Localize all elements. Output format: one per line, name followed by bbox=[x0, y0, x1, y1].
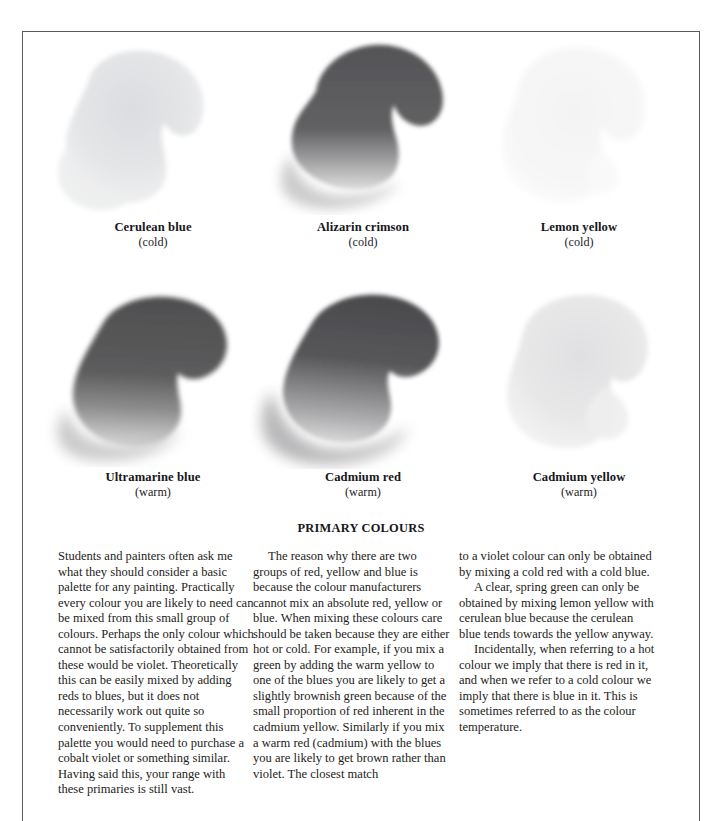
paint-swatch-icon bbox=[40, 31, 266, 219]
paint-swatch-icon bbox=[466, 281, 692, 469]
swatch-caption: Alizarin crimson (cold) bbox=[250, 219, 476, 251]
paint-swatch-icon bbox=[40, 281, 266, 469]
swatch-alizarin-crimson: Alizarin crimson (cold) bbox=[250, 31, 476, 274]
swatch-temperature: (cold) bbox=[40, 235, 266, 251]
swatch-name: Alizarin crimson bbox=[250, 219, 476, 235]
swatch-temperature: (warm) bbox=[40, 485, 266, 501]
paragraph: The reason why there are two groups of r… bbox=[253, 549, 453, 782]
paint-swatch-icon bbox=[466, 31, 692, 219]
swatch-caption: Ultramarine blue (warm) bbox=[40, 469, 266, 501]
section-heading: PRIMARY COLOURS bbox=[22, 521, 700, 536]
swatch-caption: Cadmium yellow (warm) bbox=[466, 469, 692, 501]
swatch-cerulean-blue: Cerulean blue (cold) bbox=[40, 31, 266, 274]
paragraph: to a violet colour can only be obtained … bbox=[459, 549, 655, 580]
swatch-temperature: (cold) bbox=[466, 235, 692, 251]
swatch-cadmium-yellow: Cadmium yellow (warm) bbox=[466, 281, 692, 524]
swatch-cadmium-red: Cadmium red (warm) bbox=[250, 281, 476, 524]
paint-swatch-icon bbox=[250, 31, 476, 219]
paragraph: A clear, spring green can only be obtain… bbox=[459, 580, 655, 642]
swatch-name: Cerulean blue bbox=[40, 219, 266, 235]
paragraph: Incidentally, when referring to a hot co… bbox=[459, 642, 655, 735]
swatch-name: Ultramarine blue bbox=[40, 469, 266, 485]
swatch-lemon-yellow: Lemon yellow (cold) bbox=[466, 31, 692, 274]
swatch-caption: Lemon yellow (cold) bbox=[466, 219, 692, 251]
swatch-name: Cadmium red bbox=[250, 469, 476, 485]
swatch-name: Lemon yellow bbox=[466, 219, 692, 235]
swatch-temperature: (warm) bbox=[466, 485, 692, 501]
text-column-2: The reason why there are two groups of r… bbox=[253, 549, 453, 782]
text-column-3: to a violet colour can only be obtained … bbox=[459, 549, 655, 736]
swatch-temperature: (warm) bbox=[250, 485, 476, 501]
body-columns: Students and painters often ask me what … bbox=[22, 549, 700, 789]
swatch-caption: Cadmium red (warm) bbox=[250, 469, 476, 501]
swatch-ultramarine-blue: Ultramarine blue (warm) bbox=[40, 281, 266, 524]
swatch-grid: Cerulean blue (cold) bbox=[22, 31, 700, 518]
swatch-name: Cadmium yellow bbox=[466, 469, 692, 485]
paragraph: Students and painters often ask me what … bbox=[58, 549, 254, 798]
swatch-caption: Cerulean blue (cold) bbox=[40, 219, 266, 251]
swatch-temperature: (cold) bbox=[250, 235, 476, 251]
paint-swatch-icon bbox=[250, 281, 476, 469]
text-column-1: Students and painters often ask me what … bbox=[58, 549, 254, 798]
